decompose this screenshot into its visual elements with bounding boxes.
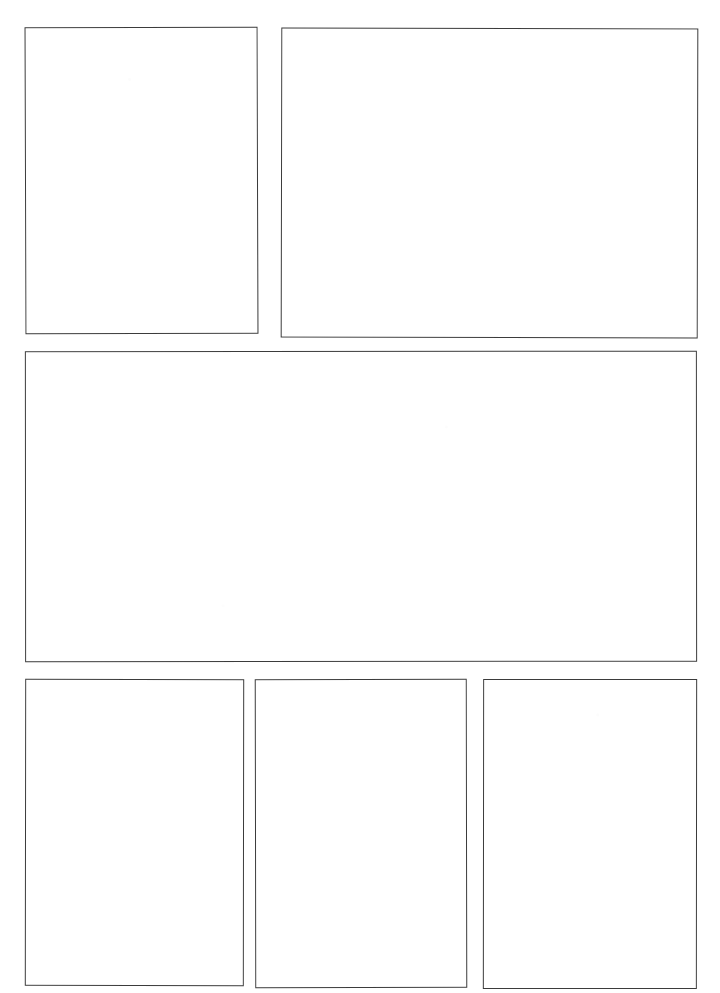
comic-page	[0, 0, 720, 993]
comic-panel-1[interactable]	[25, 27, 259, 335]
comic-panel-5[interactable]	[255, 679, 468, 988]
comic-panel-3[interactable]	[25, 351, 697, 663]
comic-panel-4[interactable]	[25, 679, 244, 986]
comic-panel-2[interactable]	[281, 28, 699, 339]
comic-panel-6[interactable]	[483, 679, 697, 989]
